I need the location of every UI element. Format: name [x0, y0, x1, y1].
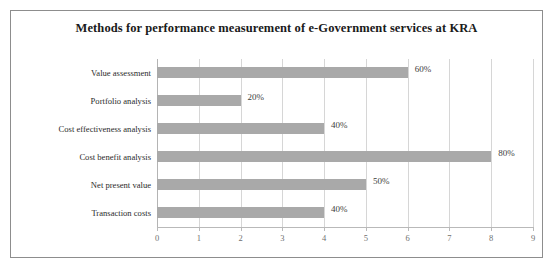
x-tick-label: 9: [531, 233, 535, 243]
bar: [157, 151, 491, 162]
tick-mark: [408, 227, 409, 231]
x-tick-label: 3: [280, 233, 284, 243]
tick-mark: [282, 227, 283, 231]
category-axis-labels: Value assessmentPortfolio analysisCost e…: [25, 59, 151, 227]
tick-mark: [449, 227, 450, 231]
x-tick-label: 1: [197, 233, 201, 243]
bar-row: 50%: [157, 171, 533, 199]
x-tick-label: 6: [406, 233, 410, 243]
bar-value-label: 20%: [248, 92, 265, 102]
category-label: Cost benefit analysis: [79, 143, 151, 171]
category-label: Transaction costs: [91, 199, 151, 227]
x-axis-tick-labels: 0123456789: [157, 233, 533, 247]
bar: [157, 123, 324, 134]
x-tick-label: 4: [322, 233, 326, 243]
bar-row: 40%: [157, 115, 533, 143]
x-axis-tick-marks: [157, 227, 533, 231]
category-label: Portfolio analysis: [91, 87, 151, 115]
bar-row: 80%: [157, 143, 533, 171]
gridline: [533, 59, 534, 227]
tick-mark: [241, 227, 242, 231]
x-tick-label: 5: [364, 233, 368, 243]
x-tick-label: 7: [447, 233, 451, 243]
plot-area: 60%20%40%80%50%40%: [157, 59, 533, 227]
bar: [157, 179, 366, 190]
bar-row: 40%: [157, 199, 533, 227]
bar: [157, 67, 408, 78]
tick-mark: [366, 227, 367, 231]
bar: [157, 95, 241, 106]
tick-mark: [157, 227, 158, 231]
bar-value-label: 40%: [331, 120, 348, 130]
category-label: Cost effectiveness analysis: [59, 115, 151, 143]
tick-mark: [491, 227, 492, 231]
category-label: Net present value: [91, 171, 151, 199]
category-label: Value assessment: [91, 59, 151, 87]
chart-title: Methods for performance measurement of e…: [11, 21, 542, 36]
x-tick-label: 8: [489, 233, 493, 243]
x-tick-label: 0: [155, 233, 159, 243]
tick-mark: [533, 227, 534, 231]
bar-row: 60%: [157, 59, 533, 87]
tick-mark: [199, 227, 200, 231]
bar: [157, 207, 324, 218]
bar-value-label: 50%: [373, 176, 390, 186]
bar-row: 20%: [157, 87, 533, 115]
chart-frame: Methods for performance measurement of e…: [10, 10, 543, 258]
bar-value-label: 80%: [498, 148, 515, 158]
x-tick-label: 2: [238, 233, 242, 243]
bar-value-label: 40%: [331, 204, 348, 214]
tick-mark: [324, 227, 325, 231]
bar-value-label: 60%: [415, 64, 432, 74]
